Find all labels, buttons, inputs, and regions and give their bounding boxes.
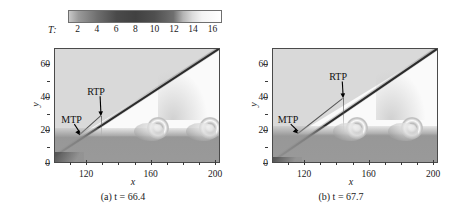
x-tick-b-200: 200 bbox=[426, 169, 440, 179]
panel-a: MTPRTP 0204060 120160200 y x (a) t = 66.… bbox=[14, 45, 232, 209]
thermal-plume-a bbox=[158, 69, 208, 121]
x-minor-tick-a-110 bbox=[70, 162, 71, 166]
x-tick-a-160: 160 bbox=[144, 169, 158, 179]
x-tickmark-a-160 bbox=[151, 160, 152, 165]
y-tickmark-a-20 bbox=[45, 130, 50, 131]
annotation-label-b-mtp: MTP bbox=[278, 114, 299, 125]
panel-caption-a: (a) t = 66.4 bbox=[101, 191, 146, 202]
x-minor-tick-a-130 bbox=[102, 162, 103, 166]
x-minor-tick-b-140 bbox=[336, 162, 337, 166]
y-tickmark-b-60 bbox=[263, 64, 268, 65]
x-axis-label-a: x bbox=[131, 176, 135, 187]
colorbar-tick-6: 6 bbox=[114, 24, 119, 34]
x-tickmark-a-120 bbox=[86, 160, 87, 165]
x-tickmark-b-200 bbox=[433, 160, 434, 165]
x-tick-b-160: 160 bbox=[362, 169, 376, 179]
y-minor-tick-b-10 bbox=[265, 147, 268, 148]
colorbar-tick-8: 8 bbox=[133, 24, 138, 34]
temperature-field-b bbox=[273, 49, 437, 162]
thermal-plume-b bbox=[376, 69, 426, 121]
y-tickmark-a-60 bbox=[45, 64, 50, 65]
y-axis-label-b: y bbox=[248, 102, 259, 106]
x-tickmark-b-160 bbox=[369, 160, 370, 165]
y-axis-label-a: y bbox=[30, 102, 41, 106]
y-minor-tick-a-30 bbox=[47, 114, 50, 115]
kh-lobe-a-1 bbox=[134, 123, 164, 141]
temperature-field-a bbox=[55, 49, 219, 162]
x-minor-tick-a-190 bbox=[199, 162, 200, 166]
y-minor-tick-a-10 bbox=[47, 147, 50, 148]
x-minor-tick-b-190 bbox=[417, 162, 418, 166]
colorbar-tick-16: 16 bbox=[208, 24, 218, 34]
x-axis-a: 120160200 bbox=[54, 165, 220, 179]
x-tick-a-200: 200 bbox=[208, 169, 222, 179]
y-tickmark-b-40 bbox=[263, 97, 268, 98]
colorbar-tick-4: 4 bbox=[95, 24, 100, 34]
x-minor-tick-b-130 bbox=[320, 162, 321, 166]
x-tickmark-b-120 bbox=[304, 160, 305, 165]
colorbar-tick-10: 10 bbox=[150, 24, 160, 34]
x-axis-b: 120160200 bbox=[272, 165, 438, 179]
kh-lobe-b-2 bbox=[388, 123, 418, 141]
x-minor-tick-b-170 bbox=[385, 162, 386, 166]
y-minor-tick-b-50 bbox=[265, 81, 268, 82]
colorbar-tick-2: 2 bbox=[75, 24, 80, 34]
panel-b: MTPRTP 0204060 120160200 y x (b) t = 67.… bbox=[232, 45, 450, 209]
plot-area-a: MTPRTP bbox=[54, 48, 220, 163]
plot-area-b: MTPRTP bbox=[272, 48, 438, 163]
y-tickmark-a-0 bbox=[45, 163, 50, 164]
x-minor-tick-a-140 bbox=[118, 162, 119, 166]
y-minor-tick-b-30 bbox=[265, 114, 268, 115]
x-tick-b-120: 120 bbox=[297, 169, 311, 179]
x-tick-a-120: 120 bbox=[79, 169, 93, 179]
x-minor-tick-a-170 bbox=[167, 162, 168, 166]
y-tickmark-b-20 bbox=[263, 130, 268, 131]
y-tickmark-b-0 bbox=[263, 163, 268, 164]
figure-root: T: 246810121416 MTPRTP 0204060 120160200… bbox=[0, 0, 470, 209]
colorbar-tick-14: 14 bbox=[188, 24, 198, 34]
colorbar-ticklabels: 246810121416 bbox=[68, 24, 222, 38]
x-minor-tick-b-110 bbox=[288, 162, 289, 166]
y-minor-tick-a-50 bbox=[47, 81, 50, 82]
x-tickmark-a-200 bbox=[215, 160, 216, 165]
annotation-label-a-mtp: MTP bbox=[61, 114, 82, 125]
kh-lobe-a-2 bbox=[186, 123, 216, 141]
annotation-label-a-rtp: RTP bbox=[87, 86, 105, 97]
x-axis-label-b: x bbox=[349, 176, 353, 187]
annotation-label-b-rtp: RTP bbox=[329, 71, 347, 82]
x-minor-tick-a-150 bbox=[135, 162, 136, 166]
kh-lobe-b-1 bbox=[333, 123, 363, 141]
colorbar-label: T: bbox=[48, 24, 57, 35]
colorbar-gradient bbox=[68, 10, 222, 23]
y-tickmark-a-40 bbox=[45, 97, 50, 98]
x-minor-tick-a-180 bbox=[183, 162, 184, 166]
colorbar-group: T: 246810121416 bbox=[0, 0, 470, 44]
x-minor-tick-b-150 bbox=[353, 162, 354, 166]
panel-caption-b: (b) t = 67.7 bbox=[318, 191, 363, 202]
x-minor-tick-b-180 bbox=[401, 162, 402, 166]
colorbar-tick-12: 12 bbox=[169, 24, 179, 34]
